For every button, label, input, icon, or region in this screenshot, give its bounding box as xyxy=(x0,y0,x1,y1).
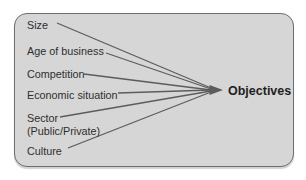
factor-label-sector-line2: (Public/Private) xyxy=(27,125,100,138)
factor-label-size: Size xyxy=(27,19,48,32)
diagram-canvas: Size Age of business Competition Economi… xyxy=(0,0,306,180)
factor-label-culture: Culture xyxy=(27,145,62,158)
factor-label-sector: Sector (Public/Private) xyxy=(27,112,100,138)
factor-label-competition: Competition xyxy=(27,68,85,81)
factor-label-age-of-business: Age of business xyxy=(27,45,104,58)
objectives-label: Objectives xyxy=(228,84,291,98)
factor-label-sector-line1: Sector xyxy=(27,112,100,125)
factor-label-economic-situation: Economic situation xyxy=(27,89,118,102)
